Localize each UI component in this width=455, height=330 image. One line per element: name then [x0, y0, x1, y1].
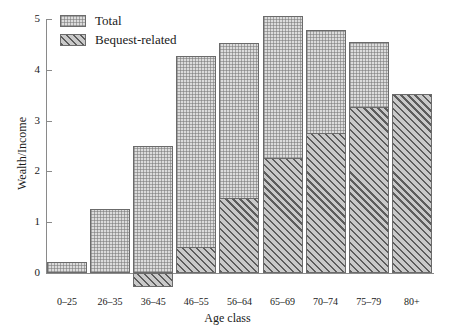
bar-total	[176, 56, 216, 273]
legend-swatch-total-icon	[60, 15, 86, 27]
bar-total	[133, 146, 173, 273]
y-tick-label: 0	[0, 267, 40, 278]
y-tick-label: 5	[0, 13, 40, 24]
y-tick-mark	[47, 70, 52, 71]
legend-item-bequest-related: Bequest-related	[60, 31, 177, 48]
bar-bequest-related	[392, 94, 432, 273]
bar-bequest-related	[263, 158, 303, 273]
y-tick-label: 1	[0, 216, 40, 227]
bar-total	[47, 262, 87, 273]
y-tick-mark	[47, 273, 52, 274]
bar-total	[90, 209, 130, 273]
x-axis-title: Age class	[0, 312, 455, 324]
bar-bequest-related	[349, 107, 389, 273]
legend-label-bequest-related: Bequest-related	[95, 33, 177, 46]
bar-chart: 012345 0–2526–3536–4546–5556–6465–6970–7…	[0, 0, 455, 330]
y-tick-label: 4	[0, 64, 40, 75]
bar-bequest-related	[176, 247, 216, 273]
y-tick-mark	[47, 121, 52, 122]
bar-bequest-related	[306, 133, 346, 273]
legend-item-total: Total	[60, 12, 177, 29]
chart-legend: Total Bequest-related	[60, 12, 177, 50]
y-tick-mark	[47, 171, 52, 172]
bar-bequest-related	[219, 198, 259, 273]
y-tick-mark	[47, 19, 52, 20]
legend-swatch-bequest-icon	[60, 34, 86, 46]
x-axis-line	[46, 273, 434, 274]
y-axis-title: Wealth/Income	[16, 117, 28, 190]
y-axis-line	[46, 19, 47, 274]
x-tick-label: 80+	[386, 297, 438, 307]
y-tick-mark	[47, 222, 52, 223]
legend-label-total: Total	[95, 14, 122, 27]
bar-bequest-related	[133, 273, 173, 287]
